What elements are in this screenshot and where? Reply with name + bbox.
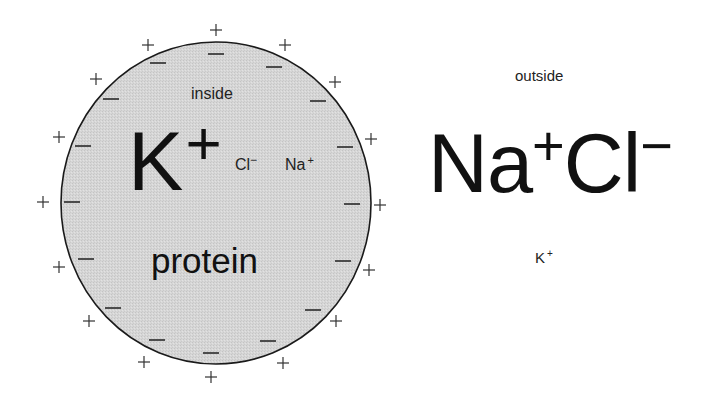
positive-charge-icon	[205, 371, 217, 383]
positive-charge-icon	[90, 73, 102, 85]
positive-charge-icon	[365, 133, 377, 145]
positive-charge-icon	[83, 315, 95, 327]
intracellular-sodium-ion: Na+	[285, 157, 314, 173]
intracellular-potassium-ion: K+	[128, 120, 222, 203]
ion-symbol: Cl	[235, 156, 250, 173]
ion-charge: −	[640, 118, 672, 174]
inside-region-label: inside	[191, 86, 233, 102]
ion-symbol: Na	[285, 156, 305, 173]
positive-charge-icon	[279, 39, 291, 51]
positive-charge-icon	[330, 315, 342, 327]
extracellular-sodium-chloride: Na+Cl−	[428, 122, 672, 205]
ion-charge: +	[185, 112, 221, 174]
positive-charge-icon	[53, 261, 65, 273]
protein-label: protein	[151, 243, 258, 278]
ion-charge: +	[547, 249, 553, 259]
ion-symbol: Na	[428, 117, 532, 210]
positive-charge-icon	[363, 264, 375, 276]
positive-charge-icon	[142, 39, 154, 51]
positive-charge-icon	[277, 357, 289, 369]
ion-symbol: K	[128, 115, 183, 208]
membrane-potential-diagram: inside K+ Cl− Na+ protein outside Na+Cl−…	[0, 0, 706, 395]
ion-charge: +	[532, 118, 564, 174]
positive-charge-icon	[37, 196, 49, 208]
ion-symbol: Cl	[564, 117, 640, 210]
intracellular-chloride-ion: Cl−	[235, 157, 257, 173]
ion-symbol: K	[535, 249, 545, 266]
positive-charge-icon	[210, 24, 222, 36]
positive-charge-icon	[53, 131, 65, 143]
extracellular-potassium-ion: K+	[535, 250, 553, 265]
ion-charge: +	[307, 155, 313, 166]
ion-charge: −	[250, 154, 257, 166]
positive-charge-icon	[374, 199, 386, 211]
positive-charge-icon	[329, 76, 341, 88]
positive-charge-icon	[138, 356, 150, 368]
outside-region-label: outside	[515, 68, 563, 83]
